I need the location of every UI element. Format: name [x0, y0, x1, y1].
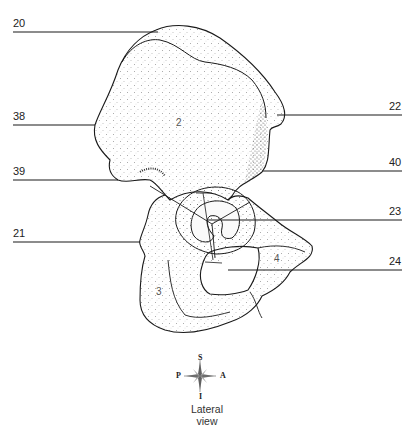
- region-label-ischium: 3: [156, 287, 162, 297]
- compass-inferior: I: [199, 393, 202, 401]
- region-label-pubis: 4: [274, 254, 280, 264]
- view-caption-line1: Lateral: [170, 403, 244, 415]
- label-23: 23: [389, 206, 401, 217]
- region-label-ilium: 2: [176, 118, 182, 128]
- label-38: 38: [13, 111, 25, 122]
- label-39: 39: [13, 166, 25, 177]
- label-22: 22: [389, 101, 401, 112]
- compass-superior: S: [198, 354, 202, 362]
- hip-bone-diagram: [0, 0, 408, 429]
- label-20: 20: [13, 18, 25, 29]
- compass-posterior: P: [176, 372, 181, 380]
- compass-rose-icon: [184, 360, 216, 392]
- ilium: [94, 26, 284, 200]
- label-24: 24: [389, 256, 401, 267]
- label-21: 21: [13, 228, 25, 239]
- compass-anterior: A: [220, 372, 226, 380]
- label-40: 40: [389, 157, 401, 168]
- view-caption-line2: view: [170, 415, 244, 427]
